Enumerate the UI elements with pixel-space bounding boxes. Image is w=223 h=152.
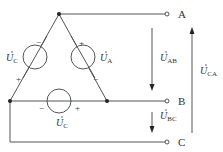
sign-c-bottom-plus: +: [75, 103, 80, 113]
terminal-label-b: B: [178, 95, 185, 107]
terminal-label-a: A: [178, 8, 186, 20]
node-right: [105, 99, 109, 103]
label-uca: UCA: [200, 65, 217, 78]
node-top: [57, 12, 61, 16]
arrowhead-ubc: [150, 126, 155, 133]
terminal-label-c: C: [178, 136, 185, 148]
sign-c-left-plus: +: [16, 74, 21, 84]
label-ua: UA: [100, 52, 112, 65]
sign-c-left-minus: −: [36, 37, 41, 47]
sign-a-plus: +: [79, 38, 84, 48]
terminal-a: [165, 12, 169, 16]
arrowhead-uca: [190, 27, 195, 34]
arrowhead-uab: [150, 84, 155, 91]
terminal-c: [165, 140, 169, 144]
terminal-b: [165, 99, 169, 103]
label-uc-bottom: UC: [56, 117, 68, 130]
node-left: [8, 99, 12, 103]
sign-a-minus: −: [93, 74, 98, 84]
sign-c-bottom-minus: −: [39, 103, 44, 113]
label-ubc: UBC: [160, 110, 177, 123]
label-uc-left: UC: [6, 52, 18, 65]
label-uab: UAB: [160, 52, 177, 65]
circuit-diagram: − + + − − + UC UA UC UAB UBC UCA A B C: [0, 0, 223, 152]
